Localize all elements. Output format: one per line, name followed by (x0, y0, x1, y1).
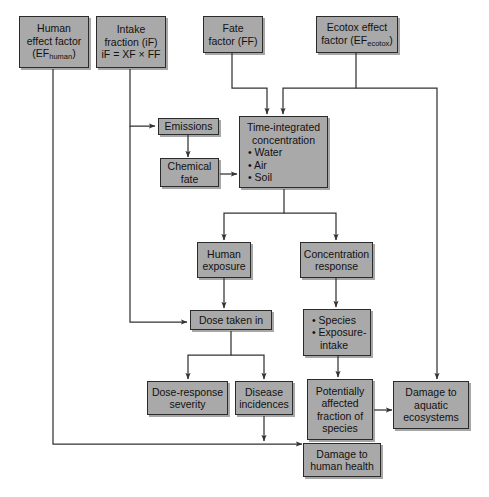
node-line: (EFhuman) (32, 47, 75, 62)
node-bullet-list: • Water • Air • Soil (242, 146, 325, 184)
node-line: exposure (202, 260, 245, 273)
node-line: Human (37, 22, 71, 35)
node-ecotox-effect-factor[interactable]: Ecotox effect factor (EFecotox) (316, 16, 398, 53)
node-dose-taken-in[interactable]: Dose taken in (190, 310, 272, 330)
edge-dose-taken-in-to-disease-incidences (231, 355, 264, 379)
node-line: Dose taken in (199, 314, 263, 327)
node-line: Concentration (304, 248, 369, 261)
node-line: fraction of (317, 410, 363, 423)
node-line: Emissions (165, 120, 213, 133)
node-species-exposure-intake[interactable]: • Species • Exposure- intake (303, 309, 371, 356)
node-line: effect factor (27, 35, 82, 48)
node-line: factor (FF) (209, 35, 258, 48)
node-header-line: Time-integrated (242, 121, 325, 134)
node-line: response (315, 260, 358, 273)
node-potentially-affected-fraction[interactable]: Potentially affected fraction of species (307, 379, 373, 440)
bullet-item: intake (312, 339, 368, 352)
node-line: fate (181, 173, 199, 186)
node-line: affected (321, 397, 358, 410)
node-line: incidences (239, 398, 289, 411)
node-line: iF = XF × FF (102, 48, 161, 61)
node-emissions[interactable]: Emissions (158, 118, 219, 135)
node-line: severity (169, 398, 205, 411)
node-line: Dose-response (152, 386, 223, 399)
node-concentration-response[interactable]: Concentration response (300, 242, 373, 278)
node-line: Ecotox effect (327, 21, 388, 34)
node-disease-incidences[interactable]: Disease incidences (235, 381, 293, 415)
node-line: species (322, 422, 358, 435)
edge-fate-to-time-integrated (232, 53, 267, 114)
node-damage-to-human-health[interactable]: Damage to human health (303, 443, 381, 477)
node-line: Chemical (168, 160, 212, 173)
edge-ecotox-to-time-integrated (283, 53, 356, 114)
node-human-exposure[interactable]: Human exposure (197, 242, 251, 278)
node-line: Damage to (405, 386, 456, 399)
bullet-item: • Exposure- (312, 326, 368, 339)
node-damage-to-aquatic-ecosystems[interactable]: Damage to aquatic ecosystems (393, 381, 469, 429)
edge-intake-to-dose-taken-in (130, 126, 187, 322)
bullet-item: • Soil (248, 171, 325, 184)
node-line: aquatic (414, 399, 448, 412)
node-dose-response-severity[interactable]: Dose-response severity (147, 381, 228, 415)
node-line: Fate (222, 22, 243, 35)
edge-dose-taken-in-to-dose-response-severity (188, 331, 231, 379)
node-line: human health (310, 460, 374, 473)
node-header-line: concentration (242, 134, 325, 147)
node-human-effect-factor[interactable]: Human effect factor (EFhuman) (19, 16, 89, 68)
node-bullet-list: • Species • Exposure- intake (306, 314, 368, 352)
node-line: Intake (117, 23, 146, 36)
node-fate-factor[interactable]: Fate factor (FF) (203, 16, 263, 53)
flowchart-canvas: Human effect factor (EFhuman) Intake fra… (0, 0, 489, 497)
node-line: Disease (245, 386, 283, 399)
node-line: Human (207, 248, 241, 261)
node-line: ecosystems (403, 411, 458, 424)
node-time-integrated-concentration[interactable]: Time-integrated concentration • Water • … (239, 116, 328, 188)
bullet-item: • Species (312, 314, 368, 327)
node-chemical-fate[interactable]: Chemical fate (160, 158, 219, 187)
node-intake-fraction[interactable]: Intake fraction (iF) iF = XF × FF (96, 16, 166, 68)
edge-time-integrated-to-human-exposure (224, 189, 284, 240)
bullet-item: • Air (248, 159, 325, 172)
node-line: fraction (iF) (104, 36, 157, 49)
bullet-item: • Water (248, 146, 325, 159)
node-line: Potentially (316, 385, 364, 398)
node-line: Damage to (316, 448, 367, 461)
edge-intake-to-emissions (130, 69, 155, 126)
edge-time-integrated-to-concentration-response (284, 213, 336, 240)
node-line: factor (EFecotox) (321, 34, 393, 49)
